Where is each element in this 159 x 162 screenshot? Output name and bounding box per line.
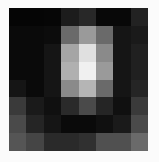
pixel-cell [131,62,148,80]
pixel-cell [44,44,61,62]
pixel-cell [79,26,96,44]
pixel-cell [61,44,78,62]
pixel-cell [131,44,148,62]
pixel-cell [79,62,96,80]
pixel-cell [9,44,26,62]
pixel-cell [9,80,26,98]
pixel-cell [61,97,78,115]
pixel-cell [96,80,113,98]
pixel-cell [44,8,61,26]
pixel-cell [9,8,26,26]
pixel-cell [79,80,96,98]
pixel-cell [26,97,43,115]
pixel-cell [9,26,26,44]
pixel-cell [79,115,96,133]
pixel-cell [113,80,130,98]
pixel-cell [96,26,113,44]
pixel-cell [44,133,61,151]
pixel-cell [26,8,43,26]
pixel-cell [96,8,113,26]
pixel-cell [131,8,148,26]
pixel-cell [79,133,96,151]
pixel-cell [26,115,43,133]
pixel-cell [96,97,113,115]
pixel-cell [79,44,96,62]
pixel-cell [131,80,148,98]
pixel-cell [61,133,78,151]
pixel-cell [131,97,148,115]
pixel-cell [61,8,78,26]
pixel-cell [26,44,43,62]
pixel-cell [131,133,148,151]
pixel-cell [26,80,43,98]
pixel-cell [9,133,26,151]
pixel-cell [113,115,130,133]
pixel-cell [9,97,26,115]
pixel-grid [9,8,148,151]
pixel-cell [113,44,130,62]
pixel-cell [26,26,43,44]
pixel-cell [44,26,61,44]
pixel-cell [26,62,43,80]
pixel-cell [44,62,61,80]
pixel-cell [96,115,113,133]
pixel-cell [131,26,148,44]
pixel-cell [44,80,61,98]
pixel-cell [9,62,26,80]
pixel-cell [113,26,130,44]
pixel-cell [61,80,78,98]
pixel-cell [131,115,148,133]
pixel-cell [26,133,43,151]
pixel-cell [113,97,130,115]
pixel-cell [79,97,96,115]
pixel-cell [113,8,130,26]
pixel-cell [96,133,113,151]
pixel-cell [113,62,130,80]
pixel-cell [61,115,78,133]
pixel-cell [96,62,113,80]
pixel-cell [61,62,78,80]
pixel-cell [79,8,96,26]
pixel-cell [96,44,113,62]
pixel-cell [44,115,61,133]
pixel-cell [44,97,61,115]
pixel-cell [61,26,78,44]
pixel-cell [9,115,26,133]
pixel-cell [113,133,130,151]
